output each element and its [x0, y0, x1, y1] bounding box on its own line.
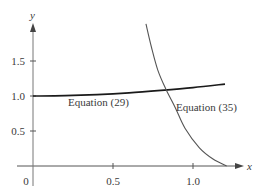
- y-axis-arrow-icon: [30, 23, 36, 32]
- x-tick-label: 0.5: [106, 175, 120, 187]
- chart: 0.5 1.0 0 0.5 1.0 1.5 x y Equation (29) …: [0, 0, 258, 194]
- origin-label: 0: [23, 175, 29, 187]
- annotation-equation-35: Equation (35): [176, 101, 237, 114]
- y-axis-label: y: [29, 9, 35, 21]
- annotation-equation-29: Equation (29): [68, 96, 129, 109]
- x-axis-label: x: [246, 160, 252, 172]
- series-equation-29: [33, 84, 225, 96]
- x-tick-label: 1.0: [186, 175, 200, 187]
- y-tick-label: 1.0: [11, 90, 25, 102]
- y-tick-label: 1.5: [11, 55, 25, 67]
- y-tick-label: 0.5: [11, 125, 25, 137]
- ticks: [30, 61, 193, 169]
- series-equation-35: [146, 24, 227, 166]
- x-axis-arrow-icon: [235, 163, 244, 169]
